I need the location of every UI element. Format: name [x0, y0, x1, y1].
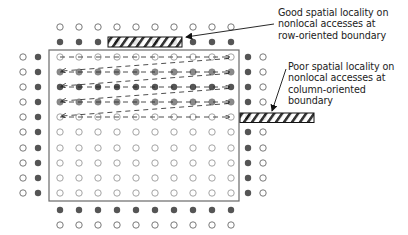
ghost-point [133, 207, 139, 213]
grid-point [133, 222, 139, 228]
ghost-point [35, 99, 41, 105]
ghost-point [152, 145, 158, 151]
ghost-point [57, 39, 63, 45]
grid-point [76, 222, 82, 228]
grid-point [20, 129, 26, 135]
poor-annotation-line: nonlocal accesses at [288, 72, 408, 83]
grid-point [95, 24, 101, 30]
ghost-point [171, 145, 177, 151]
ghost-point [76, 175, 82, 181]
grid-point [20, 145, 26, 151]
ghost-point [95, 160, 101, 166]
grid-point [57, 222, 63, 228]
ghost-point [190, 145, 196, 151]
ghost-point [152, 175, 158, 181]
ghost-point [35, 129, 41, 135]
ghost-point [35, 190, 41, 196]
ghost-point [95, 145, 101, 151]
grid-point [228, 222, 234, 228]
ghost-point [57, 145, 63, 151]
ghost-point [245, 145, 251, 151]
grid-point [20, 84, 26, 90]
ghost-point [57, 129, 63, 135]
grid-point [20, 114, 26, 120]
grid-point [190, 222, 196, 228]
grid-point [20, 175, 26, 181]
ghost-point [114, 175, 120, 181]
grid-point [152, 222, 158, 228]
ghost-point [133, 129, 139, 135]
ghost-point [190, 207, 196, 213]
ghost-point [133, 145, 139, 151]
ghost-point [76, 160, 82, 166]
ghost-point [209, 129, 215, 135]
ghost-point [114, 145, 120, 151]
ghost-point [171, 207, 177, 213]
ghost-point [171, 129, 177, 135]
ghost-point [35, 175, 41, 181]
grid-point [20, 160, 26, 166]
ghost-point [35, 145, 41, 151]
ghost-point [95, 207, 101, 213]
grid-point [260, 190, 266, 196]
poor-annotation-line: Poor spatial locality on [288, 61, 408, 72]
ghost-point [76, 129, 82, 135]
ghost-point [228, 84, 234, 90]
ghost-point [228, 114, 234, 120]
grid-point [190, 24, 196, 30]
good-locality-annotation: Good spatial locality on nonlocal access… [278, 7, 408, 41]
ghost-point [133, 190, 139, 196]
ghost-point [76, 207, 82, 213]
ghost-point [190, 190, 196, 196]
ghost-point [57, 190, 63, 196]
grid-point [20, 190, 26, 196]
ghost-point [228, 39, 234, 45]
grid-point [260, 84, 266, 90]
ghost-point [152, 160, 158, 166]
ghost-point [95, 175, 101, 181]
ghost-point [152, 190, 158, 196]
grid-point [171, 24, 177, 30]
ghost-point [228, 175, 234, 181]
ghost-point [76, 145, 82, 151]
row-sweep-arrow [62, 74, 229, 87]
ghost-point [35, 54, 41, 60]
ghost-point [190, 175, 196, 181]
ghost-point [209, 207, 215, 213]
ghost-point [209, 190, 215, 196]
ghost-point [209, 175, 215, 181]
grid-point [260, 99, 266, 105]
ghost-point [245, 54, 251, 60]
grid-point [57, 24, 63, 30]
ghost-point [228, 190, 234, 196]
ghost-point [114, 160, 120, 166]
poor-annotation-line: boundary [288, 95, 408, 106]
ghost-point [228, 160, 234, 166]
ghost-point [57, 160, 63, 166]
ghost-point [95, 39, 101, 45]
ghost-point [190, 129, 196, 135]
ghost-point [95, 129, 101, 135]
ghost-point [245, 175, 251, 181]
ghost-point [57, 207, 63, 213]
grid-point [260, 175, 266, 181]
ghost-point [228, 207, 234, 213]
ghost-point [209, 160, 215, 166]
row-sweep-arrow [62, 104, 229, 117]
grid-point [260, 160, 266, 166]
grid-point [20, 69, 26, 75]
poor-locality-pointer-arrow [272, 69, 286, 111]
ghost-point [114, 190, 120, 196]
ghost-point [95, 190, 101, 196]
ghost-point [133, 160, 139, 166]
ghost-point [76, 190, 82, 196]
ghost-point [35, 160, 41, 166]
ghost-point [171, 175, 177, 181]
ghost-point [114, 129, 120, 135]
grid-point [76, 24, 82, 30]
ghost-point [133, 175, 139, 181]
ghost-point [152, 129, 158, 135]
ghost-point [245, 129, 251, 135]
ghost-point [190, 39, 196, 45]
poor-locality-annotation: Poor spatial locality on nonlocal access… [288, 61, 408, 106]
